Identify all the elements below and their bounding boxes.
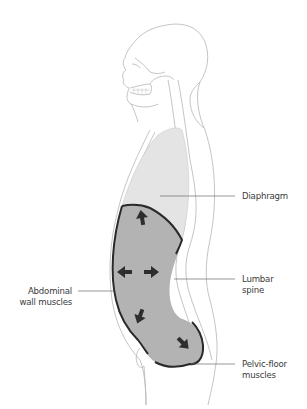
lumbar-spine-label-line2: spine [242, 285, 274, 296]
lumbar-spine-label: Lumbar spine [242, 274, 274, 296]
abdominal-wall-label-line2: wall muscles [19, 297, 72, 308]
diaphragm-label-text: Diaphragm [242, 191, 288, 202]
diaphragm-label: Diaphragm [242, 191, 288, 202]
abdominal-wall-label-line1: Abdominal [19, 286, 72, 297]
abdominal-wall-label: Abdominal wall muscles [19, 286, 72, 308]
pelvic-floor-label-line1: Pelvic-floor [242, 359, 287, 370]
pelvic-floor-label: Pelvic-floor muscles [242, 359, 287, 381]
anatomy-diagram [0, 0, 307, 409]
abdominal-cavity [113, 205, 203, 367]
head-outline [123, 24, 208, 128]
lumbar-spine-label-line1: Lumbar [242, 274, 274, 285]
pelvic-floor-label-line2: muscles [242, 370, 287, 381]
